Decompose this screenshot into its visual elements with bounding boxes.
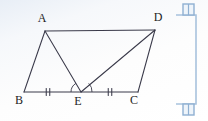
selection-guide-bottom-right-corner bbox=[176, 96, 196, 104]
selection-guide-group bbox=[176, 15, 196, 104]
crop-selection-overlay[interactable] bbox=[0, 0, 208, 121]
selection-handle-top-right[interactable] bbox=[183, 4, 194, 15]
selection-handle-bottom-right[interactable] bbox=[183, 104, 194, 115]
geometry-figure-screenshot: A D B E C bbox=[0, 0, 208, 121]
selection-guide-top-right-corner bbox=[176, 15, 196, 28]
